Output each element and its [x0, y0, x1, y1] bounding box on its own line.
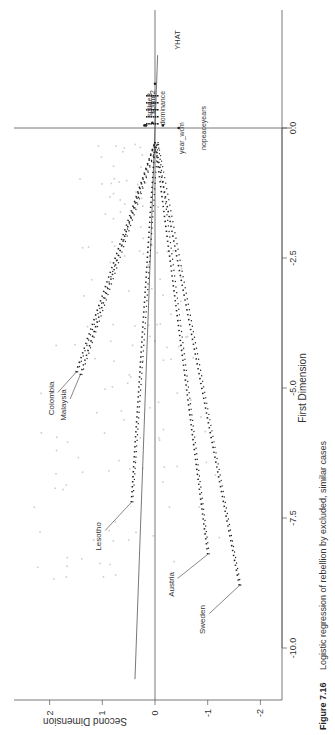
observation-point: [204, 431, 206, 433]
cluster-point: [150, 102, 152, 104]
observation-point: [41, 432, 43, 434]
observation-point: [105, 213, 107, 215]
observation-point: [151, 288, 153, 290]
case-label-lesotho: Lesotho: [94, 522, 103, 551]
observation-point: [113, 360, 115, 362]
observation-point: [79, 178, 81, 180]
observation-point: [156, 324, 158, 326]
observation-point: [162, 481, 164, 483]
observation-point: [187, 336, 189, 338]
cluster-point: [150, 116, 152, 118]
observation-point: [34, 506, 36, 508]
observation-point: [142, 238, 144, 240]
observation-point: [62, 489, 64, 491]
observation-point: [128, 374, 130, 376]
observation-point: [110, 262, 112, 264]
observation-point: [54, 487, 56, 489]
observation-point: [192, 357, 194, 359]
observation-point: [163, 359, 165, 361]
variable-label-dominance: dominance: [159, 91, 166, 125]
observation-point: [77, 457, 79, 459]
observation-point: [205, 462, 207, 464]
observation-point: [163, 429, 165, 431]
variable-label-year_wcm: year_wcm: [178, 122, 186, 154]
cluster-point: [146, 109, 148, 111]
cluster-point: [155, 123, 157, 125]
observation-point: [108, 470, 110, 472]
variable-label-yhat: YHAT: [173, 30, 182, 50]
observation-point: [113, 218, 115, 220]
observation-point: [159, 279, 161, 281]
observation-point: [115, 145, 117, 147]
observation-point: [83, 295, 85, 297]
observation-point: [169, 506, 171, 508]
cluster-point: [148, 123, 150, 125]
case-connector: [133, 142, 158, 502]
observation-point: [139, 437, 141, 439]
observation-point: [99, 563, 101, 565]
y-axis-title: Second Dimension: [43, 716, 127, 727]
x-axis-title: First Dimension: [297, 353, 308, 422]
observation-point: [176, 392, 178, 394]
background-points: [34, 144, 221, 580]
observation-point: [55, 345, 57, 347]
observation-point: [104, 432, 106, 434]
observation-point: [66, 484, 68, 486]
label-leader-line: [70, 375, 80, 399]
label-leader-line: [209, 586, 239, 614]
case-label-colombia: Colombia: [47, 381, 56, 415]
observation-point: [82, 471, 84, 473]
observation-point: [101, 183, 103, 185]
observation-point: [159, 439, 161, 441]
observation-point: [135, 460, 137, 462]
observation-point: [111, 183, 113, 185]
observation-point: [40, 393, 42, 395]
variable-point: [177, 127, 180, 130]
observation-point: [160, 179, 162, 181]
observation-point: [74, 344, 76, 346]
regression-line: [135, 55, 158, 679]
observation-point: [119, 199, 121, 201]
observation-point: [98, 145, 100, 147]
first-dimension-axis: -10.0-7.5-5.0-2.50.0First Dimension: [282, 122, 308, 659]
y-tick-label: -1: [203, 709, 213, 717]
variable-point: [162, 124, 165, 127]
observation-point: [157, 206, 159, 208]
observation-point: [178, 346, 180, 348]
cluster-point: [150, 95, 152, 97]
observation-point: [140, 147, 142, 149]
observation-point: [156, 252, 158, 254]
cluster-point: [148, 95, 150, 97]
y-tick-label: 1: [97, 710, 107, 715]
observation-point: [129, 468, 131, 470]
observation-point: [142, 205, 144, 207]
cluster-point: [155, 102, 157, 104]
observation-point: [115, 574, 117, 576]
observation-point: [159, 323, 161, 325]
observation-point: [124, 255, 126, 257]
case-connector: [82, 142, 158, 375]
observation-point: [96, 412, 98, 414]
cluster-point: [157, 123, 159, 125]
observation-point: [82, 247, 84, 249]
case-connector: [158, 142, 241, 586]
observation-point: [134, 325, 136, 327]
cluster-point: [157, 116, 159, 118]
observation-point: [173, 250, 175, 252]
observation-point: [88, 246, 90, 248]
cluster-point: [148, 102, 150, 104]
observation-point: [66, 576, 68, 578]
label-leader-line: [105, 502, 131, 530]
observation-point: [181, 268, 183, 270]
observation-point: [109, 564, 111, 566]
case-connector: [76, 142, 155, 372]
observation-point: [166, 347, 168, 349]
observation-point: [162, 294, 164, 296]
x-tick-label: -10.0: [288, 638, 298, 659]
case-connector: [77, 142, 158, 372]
x-tick-label: 0.0: [288, 122, 298, 135]
observation-point: [190, 399, 192, 401]
observation-point: [153, 535, 155, 537]
cluster-point: [155, 95, 157, 97]
observation-point: [180, 276, 182, 278]
